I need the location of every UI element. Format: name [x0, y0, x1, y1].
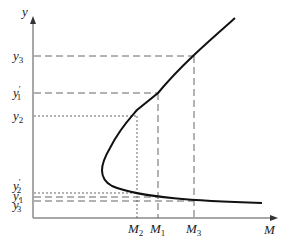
label-y3: y3: [11, 48, 24, 65]
label-y2: y2: [11, 108, 23, 125]
label-y1-prime: y′1: [11, 84, 21, 102]
s-curve-diagram: y y3 y′1 y2 y′2 y1 y′3 M2 M1 M3 M: [0, 0, 292, 243]
label-M1: M1: [149, 221, 165, 238]
x-labels: M2 M1 M3 M: [127, 221, 276, 238]
x-axis-arrow-icon: [270, 215, 278, 221]
label-M3: M3: [185, 221, 202, 238]
y-axis-label: y: [20, 4, 28, 19]
y-axis-arrow-icon: [30, 16, 36, 24]
label-M2: M2: [127, 221, 143, 238]
y-labels: y y3 y′1 y2 y′2 y1 y′3: [11, 4, 28, 214]
axes: [33, 22, 272, 218]
response-curve: [102, 18, 262, 203]
label-y3-prime: y′3: [11, 196, 22, 214]
x-axis-label: M: [263, 222, 276, 237]
